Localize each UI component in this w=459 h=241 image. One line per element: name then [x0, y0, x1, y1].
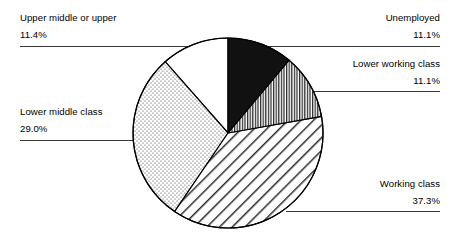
slice-label-unemployed: Unemployed 11.1% — [386, 11, 440, 41]
slice-label-lower-middle-class: Lower middle class 29.0% — [20, 105, 102, 135]
slice-label-value: 29.0% — [20, 122, 102, 135]
pie-slices — [133, 38, 323, 228]
slice-label-category: Lower middle class — [20, 105, 102, 118]
slice-label-value: 11.1% — [353, 74, 440, 87]
pie-chart-figure: Upper middle or upper 11.4% Lower middle… — [0, 0, 459, 241]
slice-label-category: Working class — [380, 177, 440, 190]
slice-label-upper-middle-or-upper: Upper middle or upper 11.4% — [20, 11, 117, 41]
slice-label-value: 37.3% — [380, 194, 440, 207]
slice-label-value: 11.1% — [386, 28, 440, 41]
slice-label-lower-working-class: Lower working class 11.1% — [353, 57, 440, 87]
slice-label-category: Lower working class — [353, 57, 440, 70]
slice-label-category: Unemployed — [386, 11, 440, 24]
slice-label-value: 11.4% — [20, 28, 117, 41]
slice-label-category: Upper middle or upper — [20, 11, 117, 24]
slice-label-working-class: Working class 37.3% — [380, 177, 440, 207]
